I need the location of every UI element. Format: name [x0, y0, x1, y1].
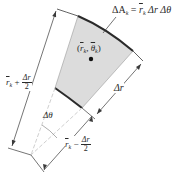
outer-radius-label: rk + Δr2	[6, 74, 32, 91]
centroid-label: (rk, θk)	[77, 44, 101, 54]
area-leader-line	[103, 17, 116, 33]
delta-theta-label: Δθ	[43, 111, 53, 120]
dashed-radius-left	[31, 88, 55, 155]
centroid-point	[89, 57, 93, 61]
delta-r-label: Δr	[114, 83, 124, 93]
area-formula-label: ΔAk = rk Δr Δθ	[112, 5, 171, 16]
inner-radius-label: rk − Δr2	[65, 136, 91, 153]
delta-theta-arc	[42, 125, 57, 138]
